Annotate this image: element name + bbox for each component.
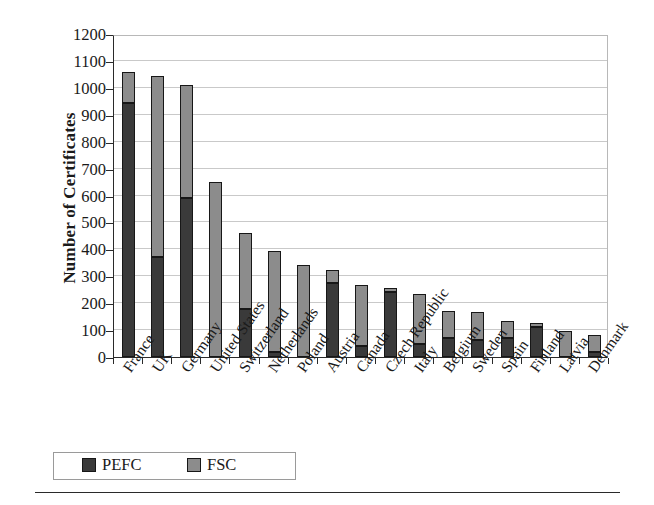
y-axis-tick-mark — [106, 304, 113, 305]
y-axis-tick-mark — [106, 277, 113, 278]
y-axis-tick-label: 400 — [46, 242, 106, 259]
y-axis-tick-mark — [106, 250, 113, 251]
y-axis-tick-label: 300 — [46, 269, 106, 286]
bar-group[interactable] — [442, 34, 455, 357]
legend-swatch-fsc-icon — [187, 458, 201, 472]
bar-segment-pefc[interactable] — [122, 103, 135, 357]
y-axis-tick-label: 100 — [46, 323, 106, 340]
bar-group[interactable] — [355, 34, 368, 357]
bar-segment-fsc[interactable] — [530, 323, 543, 326]
y-axis-tick-mark — [106, 223, 113, 224]
bar-segment-fsc[interactable] — [122, 72, 135, 103]
y-axis-tick-mark — [106, 143, 113, 144]
bar-group[interactable] — [501, 34, 514, 357]
y-axis-tick-label: 1200 — [46, 27, 106, 44]
bar-group[interactable] — [384, 34, 397, 357]
y-axis-tick-mark — [106, 62, 113, 63]
y-axis-tick-label: 0 — [46, 350, 106, 367]
y-axis-tick-mark — [106, 358, 113, 359]
bar-segment-fsc[interactable] — [442, 311, 455, 337]
bar-group[interactable] — [471, 34, 484, 357]
y-axis-tick-label: 1000 — [46, 81, 106, 98]
chart-figure: Number of Certificates 12001100100090080… — [0, 0, 654, 505]
bar-series-container — [114, 36, 607, 357]
y-axis-tick-label: 900 — [46, 108, 106, 125]
y-axis-tick-mark — [106, 170, 113, 171]
legend-item-pefc: PEFC — [82, 457, 141, 474]
legend-swatch-pefc-icon — [82, 458, 96, 472]
bar-group[interactable] — [151, 34, 164, 357]
plot-area — [113, 35, 608, 358]
y-axis-tick-label: 500 — [46, 215, 106, 232]
bottom-divider-rule — [35, 492, 620, 493]
legend-label-pefc: PEFC — [102, 457, 141, 474]
bar-segment-pefc[interactable] — [180, 198, 193, 357]
x-axis-tick-mark — [113, 358, 114, 364]
bar-segment-fsc[interactable] — [180, 85, 193, 198]
bar-group[interactable] — [180, 34, 193, 357]
y-axis-tick-label: 800 — [46, 134, 106, 151]
bar-group[interactable] — [559, 34, 572, 357]
bar-segment-fsc[interactable] — [384, 288, 397, 292]
bar-segment-fsc[interactable] — [239, 233, 252, 308]
y-axis-tick-mark — [106, 197, 113, 198]
bar-group[interactable] — [209, 34, 222, 357]
bar-group[interactable] — [122, 34, 135, 357]
y-axis-tick-mark — [106, 89, 113, 90]
bar-group[interactable] — [588, 34, 601, 357]
legend-label-fsc: FSC — [207, 457, 236, 474]
legend-item-fsc: FSC — [187, 457, 236, 474]
y-axis-tick-mark — [106, 35, 113, 36]
y-axis-tick-mark — [106, 116, 113, 117]
bar-segment-fsc[interactable] — [326, 270, 339, 283]
bar-group[interactable] — [530, 34, 543, 357]
y-axis-tick-label: 700 — [46, 161, 106, 178]
bar-group[interactable] — [326, 34, 339, 357]
y-axis-tick-mark — [106, 331, 113, 332]
bar-segment-fsc[interactable] — [151, 76, 164, 258]
chart-legend: PEFC FSC — [53, 452, 296, 480]
y-axis-tick-label: 600 — [46, 188, 106, 205]
y-axis-tick-label: 1100 — [46, 54, 106, 71]
y-axis-tick-label: 200 — [46, 296, 106, 313]
